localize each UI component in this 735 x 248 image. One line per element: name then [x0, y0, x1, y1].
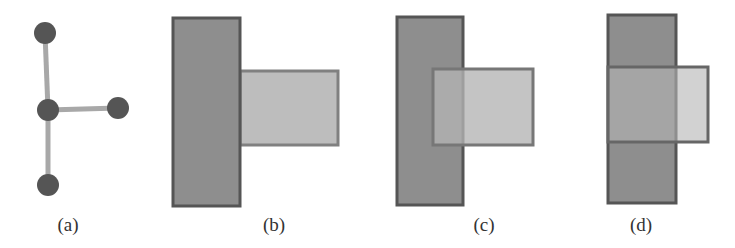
small-rectangle [240, 71, 338, 145]
panel-c-label: (c) [454, 214, 514, 236]
node-top [34, 22, 56, 44]
panel-d-rectangles [608, 15, 708, 203]
figure-canvas [0, 0, 735, 248]
panel-a-graph [34, 22, 129, 196]
node-right [107, 97, 129, 119]
panel-d-label: (d) [611, 214, 671, 236]
node-center [37, 99, 59, 121]
figure: (a) (b) (c) (d) [0, 0, 735, 248]
tall-rectangle [173, 18, 240, 206]
panel-b-label: (b) [244, 214, 304, 236]
small-rectangle [433, 69, 533, 145]
panel-b-rectangles [173, 18, 338, 206]
node-bottom [37, 174, 59, 196]
panel-a-label: (a) [38, 214, 98, 236]
panel-c-rectangles [397, 17, 533, 205]
small-rectangle [608, 67, 708, 142]
edge-top-center [45, 33, 48, 110]
